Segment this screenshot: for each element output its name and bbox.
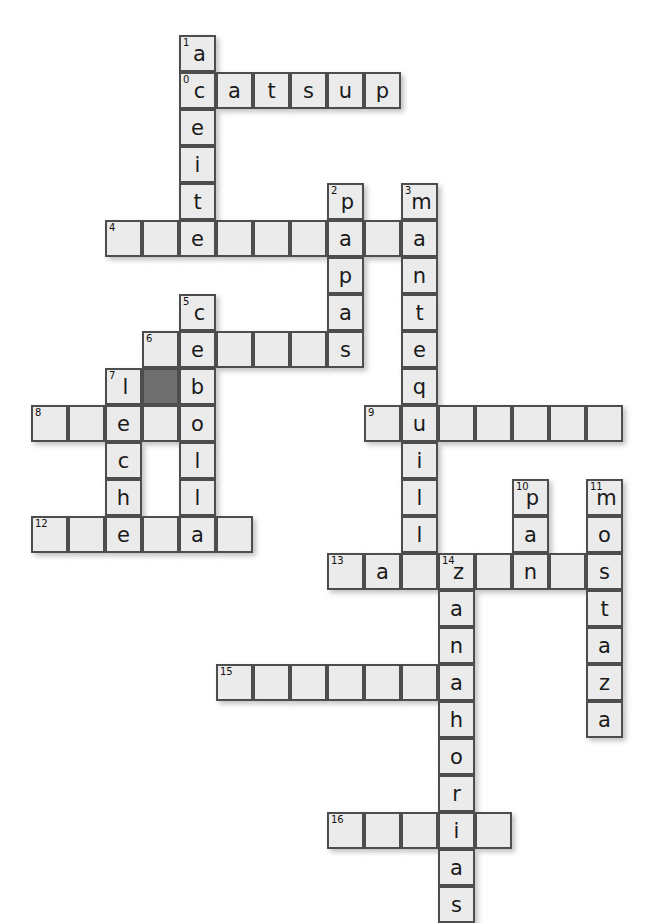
crossword-cell[interactable]	[327, 664, 364, 701]
crossword-cell[interactable]: e	[179, 220, 216, 257]
crossword-cell[interactable]: l	[401, 479, 438, 516]
crossword-cell[interactable]: a	[327, 220, 364, 257]
crossword-cell[interactable]: i	[438, 812, 475, 849]
crossword-cell[interactable]	[549, 405, 586, 442]
crossword-cell[interactable]: 16	[327, 812, 364, 849]
crossword-cell[interactable]	[216, 516, 253, 553]
cell-letter: l	[403, 518, 436, 551]
crossword-cell[interactable]	[216, 331, 253, 368]
crossword-cell[interactable]: 3m	[401, 183, 438, 220]
crossword-cell[interactable]: 1a	[179, 35, 216, 72]
crossword-cell[interactable]: 5c	[179, 294, 216, 331]
crossword-cell[interactable]: l	[179, 442, 216, 479]
crossword-cell[interactable]: s	[290, 72, 327, 109]
crossword-cell[interactable]	[586, 405, 623, 442]
crossword-cell[interactable]: 11m	[586, 479, 623, 516]
crossword-cell[interactable]: n	[438, 627, 475, 664]
crossword-cell[interactable]: a	[216, 72, 253, 109]
crossword-cell[interactable]	[401, 553, 438, 590]
crossword-cell[interactable]	[290, 220, 327, 257]
crossword-cell[interactable]: a	[364, 553, 401, 590]
crossword-cell[interactable]: o	[586, 516, 623, 553]
crossword-cell[interactable]	[142, 220, 179, 257]
crossword-cell[interactable]: 7l	[105, 368, 142, 405]
crossword-cell[interactable]: o	[179, 405, 216, 442]
crossword-cell[interactable]	[253, 220, 290, 257]
crossword-cell[interactable]: i	[179, 146, 216, 183]
crossword-cell[interactable]: a	[586, 701, 623, 738]
crossword-cell[interactable]: p	[327, 257, 364, 294]
crossword-cell[interactable]: t	[253, 72, 290, 109]
crossword-cell[interactable]	[216, 220, 253, 257]
crossword-cell[interactable]: h	[105, 479, 142, 516]
crossword-cell[interactable]	[438, 405, 475, 442]
cell-letter: e	[107, 407, 140, 440]
crossword-cell[interactable]	[401, 812, 438, 849]
crossword-cell[interactable]: t	[401, 294, 438, 331]
crossword-cell[interactable]: n	[512, 553, 549, 590]
crossword-cell[interactable]: z	[586, 664, 623, 701]
crossword-cell[interactable]: 6	[142, 331, 179, 368]
crossword-cell[interactable]: o	[438, 738, 475, 775]
crossword-cell[interactable]: t	[179, 183, 216, 220]
crossword-cell[interactable]: 9	[364, 405, 401, 442]
crossword-cell[interactable]: s	[438, 886, 475, 923]
crossword-cell[interactable]	[364, 812, 401, 849]
crossword-cell[interactable]: 10p	[512, 479, 549, 516]
crossword-cell[interactable]: r	[438, 775, 475, 812]
crossword-cell[interactable]	[68, 405, 105, 442]
crossword-cell[interactable]: t	[586, 590, 623, 627]
clue-number: 6	[146, 333, 152, 344]
crossword-cell[interactable]	[549, 553, 586, 590]
crossword-cell[interactable]: 15	[216, 664, 253, 701]
crossword-cell[interactable]	[290, 331, 327, 368]
crossword-cell[interactable]: a	[327, 294, 364, 331]
crossword-cell[interactable]	[401, 664, 438, 701]
crossword-cell[interactable]: p	[364, 72, 401, 109]
crossword-cell[interactable]: a	[438, 664, 475, 701]
crossword-cell[interactable]: 0c	[179, 72, 216, 109]
crossword-cell[interactable]	[475, 812, 512, 849]
crossword-cell[interactable]: s	[327, 331, 364, 368]
crossword-cell[interactable]: a	[179, 516, 216, 553]
crossword-cell[interactable]: h	[438, 701, 475, 738]
crossword-cell[interactable]: 12	[31, 516, 68, 553]
crossword-cell[interactable]: a	[401, 220, 438, 257]
crossword-cell[interactable]: s	[586, 553, 623, 590]
crossword-cell[interactable]: a	[438, 590, 475, 627]
crossword-cell[interactable]	[512, 405, 549, 442]
crossword-cell[interactable]	[142, 405, 179, 442]
crossword-cell[interactable]	[364, 664, 401, 701]
crossword-cell[interactable]: e	[179, 109, 216, 146]
crossword-cell[interactable]	[475, 405, 512, 442]
crossword-cell[interactable]: 14z	[438, 553, 475, 590]
crossword-cell[interactable]	[475, 553, 512, 590]
crossword-cell[interactable]: e	[179, 331, 216, 368]
crossword-cell[interactable]: n	[401, 257, 438, 294]
crossword-cell[interactable]: 2p	[327, 183, 364, 220]
crossword-cell[interactable]: a	[438, 849, 475, 886]
crossword-cell[interactable]: a	[586, 627, 623, 664]
crossword-cell[interactable]: c	[105, 442, 142, 479]
crossword-cell[interactable]: e	[105, 516, 142, 553]
crossword-cell[interactable]: e	[401, 331, 438, 368]
crossword-cell[interactable]	[253, 331, 290, 368]
crossword-cell[interactable]: i	[401, 442, 438, 479]
crossword-cell[interactable]	[364, 220, 401, 257]
crossword-cell[interactable]: u	[401, 405, 438, 442]
crossword-cell[interactable]: 4	[105, 220, 142, 257]
crossword-cell[interactable]: a	[512, 516, 549, 553]
crossword-cell[interactable]: l	[179, 479, 216, 516]
crossword-cell[interactable]: 8	[31, 405, 68, 442]
crossword-cell[interactable]	[253, 664, 290, 701]
crossword-cell[interactable]: q	[401, 368, 438, 405]
crossword-cell[interactable]	[142, 516, 179, 553]
crossword-cell[interactable]	[290, 664, 327, 701]
crossword-cell[interactable]	[68, 516, 105, 553]
crossword-cell[interactable]: b	[179, 368, 216, 405]
crossword-cell[interactable]: l	[401, 516, 438, 553]
crossword-cell[interactable]: e	[105, 405, 142, 442]
crossword-cell[interactable]: 13	[327, 553, 364, 590]
crossword-cell[interactable]: u	[327, 72, 364, 109]
